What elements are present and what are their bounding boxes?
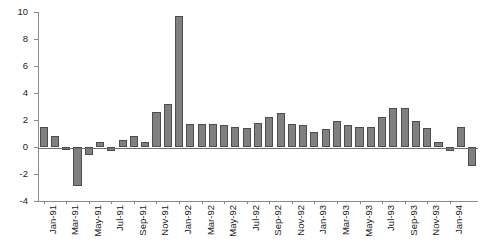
bar [130,136,138,147]
x-axis-tick-mark [179,201,180,204]
bar [322,129,330,147]
x-axis-tick-label: Jan-93 [318,205,328,234]
bar [141,142,149,147]
bar-chart: 1086420-2-4 Jan-91Mar-91May-91Jul-91Sep-… [0,0,481,250]
x-axis-tick-label: May-92 [228,205,238,237]
y-axis-tick-label: 2 [23,115,28,125]
x-axis-tick-mark [247,201,248,204]
x-axis-tick-label: Mar-92 [206,205,216,235]
x-axis-tick-label: Nov-91 [160,205,170,236]
x-axis-tick-mark [360,201,361,204]
x-axis-tick-mark [156,201,157,204]
bar [152,112,160,147]
bar [401,108,409,147]
x-axis-tick-labels: Jan-91Mar-91May-91Jul-91Sep-91Nov-91Jan-… [38,203,478,250]
x-axis-tick-mark [111,201,112,204]
bar [468,147,476,166]
x-axis-tick-mark [269,201,270,204]
x-axis-tick-mark [337,201,338,204]
bar [355,127,363,147]
bar [209,124,217,147]
x-axis-tick-mark [405,201,406,204]
x-axis-tick-label: Sep-91 [138,205,148,236]
bar [186,124,194,147]
x-axis-tick-mark [202,201,203,204]
x-axis-tick-label: Jan-91 [48,205,58,234]
bar [254,123,262,147]
bar [51,136,59,147]
bar [412,121,420,147]
x-axis-tick-mark [292,201,293,204]
y-axis-tick-label: 6 [23,61,28,71]
bar [277,113,285,147]
bar [333,121,341,147]
bar-series [38,12,478,201]
bar [344,125,352,147]
x-axis-tick-mark [89,201,90,204]
x-axis-tick-label: May-93 [364,205,374,237]
bar [299,125,307,147]
x-axis-tick-mark [427,201,428,204]
bar [265,117,273,147]
bar [175,16,183,147]
bar [73,147,81,186]
x-axis-tick-label: Jul-93 [386,205,396,231]
x-axis-tick-label: Jul-92 [251,205,261,231]
bar [231,127,239,147]
x-axis-tick-label: Nov-93 [431,205,441,236]
x-axis-tick-mark [382,201,383,204]
bar [310,132,318,147]
x-axis-tick-label: Nov-92 [296,205,306,236]
bar [96,142,104,147]
x-axis-tick-mark [314,201,315,204]
x-axis-tick-mark [134,201,135,204]
x-axis-tick-label: May-91 [93,205,103,237]
y-axis-tick-labels: 1086420-2-4 [0,0,34,250]
x-axis-tick-label: Sep-93 [409,205,419,236]
x-axis-tick-label: Mar-91 [70,205,80,235]
bar [457,127,465,147]
y-axis-tick-label: 4 [23,88,28,98]
x-axis-tick-label: Sep-92 [273,205,283,236]
y-axis-tick-label: -2 [20,169,28,179]
bar [389,108,397,147]
x-axis-line [38,201,478,202]
bar [220,125,228,147]
bar [434,142,442,147]
bar [40,127,48,147]
bar [198,124,206,147]
y-axis-tick-label: 8 [23,34,28,44]
zero-baseline [38,148,478,149]
bar [378,117,386,147]
x-axis-tick-label: Jul-91 [115,205,125,231]
x-axis-tick-label: Mar-93 [341,205,351,235]
y-axis-tick-label: 10 [17,7,28,17]
bar [119,140,127,147]
bar [164,104,172,147]
x-axis-tick-mark [224,201,225,204]
x-axis-tick-label: Jan-92 [183,205,193,234]
x-axis-tick-label: Jan-94 [454,205,464,234]
bar [243,128,251,147]
bar [423,128,431,147]
y-axis-tick-label: 0 [23,142,28,152]
x-axis-tick-mark [44,201,45,204]
x-axis-tick-mark [450,201,451,204]
bar [288,124,296,147]
x-axis-tick-mark [66,201,67,204]
bar [367,127,375,147]
y-axis-tick-label: -4 [20,196,28,206]
